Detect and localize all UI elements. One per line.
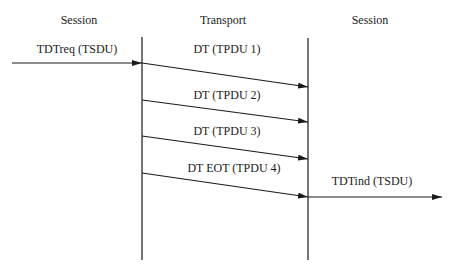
tpdu-1-label: DT (TPDU 1) [193,42,260,57]
tpdu-4-arrow [142,173,308,197]
tpdu-1-arrow [142,63,308,87]
header-transport: Transport [200,13,246,28]
tdtind-label: TDTind (TSDU) [332,174,413,189]
tpdu-4-label: DT EOT (TPDU 4) [187,161,280,176]
tpdu-3-label: DT (TPDU 3) [193,124,260,139]
tpdu-2-label: DT (TPDU 2) [193,88,260,103]
tpdu-3-arrow [142,136,308,159]
tpdu-2-arrow [142,100,308,122]
header-right-session: Session [352,13,389,28]
header-left-session: Session [61,13,98,28]
tdtreq-label: TDTreq (TSDU) [37,42,118,57]
